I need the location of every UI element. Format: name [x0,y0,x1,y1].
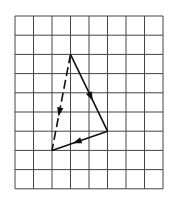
arrowhead-icon [73,137,83,143]
vector-resultant [52,54,71,150]
vector-diagram [0,0,171,197]
vectors [52,54,108,150]
grid [15,16,163,189]
